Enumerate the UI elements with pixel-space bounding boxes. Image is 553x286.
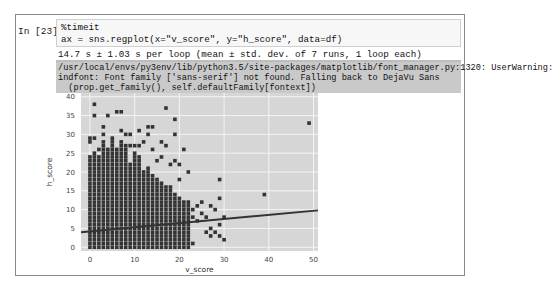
svg-text:30: 30 [220, 256, 229, 264]
x-axis-label: v_score [185, 265, 214, 274]
svg-text:10: 10 [66, 206, 75, 214]
timing-output: 14.7 s ± 1.03 s per loop (mean ± std. de… [58, 49, 422, 60]
svg-text:0: 0 [88, 256, 92, 264]
stderr-line-2: indfont: Font family ['sans-serif'] not … [58, 73, 440, 83]
stderr-line-1: /usr/local/envs/py3env/lib/python3.5/sit… [58, 63, 553, 73]
x-axis-ticks: 01020304050 [88, 256, 318, 264]
svg-text:20: 20 [66, 169, 75, 177]
svg-text:20: 20 [175, 256, 184, 264]
code-line-2: ax = sns.regplot(x="v_score", y="h_score… [61, 34, 342, 45]
regplot-figure: 0510152025303540 01020304050 v_score h_s… [30, 88, 330, 278]
svg-text:0: 0 [71, 244, 75, 252]
svg-text:50: 50 [309, 256, 318, 264]
svg-text:30: 30 [66, 131, 75, 139]
code-input[interactable]: %timeit ax = sns.regplot(x="v_score", y=… [56, 19, 461, 47]
svg-text:25: 25 [66, 150, 75, 158]
svg-text:40: 40 [264, 256, 273, 264]
svg-text:40: 40 [66, 93, 75, 101]
svg-text:15: 15 [66, 187, 75, 195]
y-axis-ticks: 0510152025303540 [66, 93, 75, 251]
scatter-plot: 0510152025303540 01020304050 v_score h_s… [30, 88, 330, 278]
svg-text:35: 35 [66, 112, 75, 120]
svg-text:5: 5 [71, 225, 75, 233]
y-axis-label: h_score [45, 157, 54, 186]
code-line-1: %timeit [61, 22, 100, 33]
svg-text:10: 10 [130, 256, 139, 264]
